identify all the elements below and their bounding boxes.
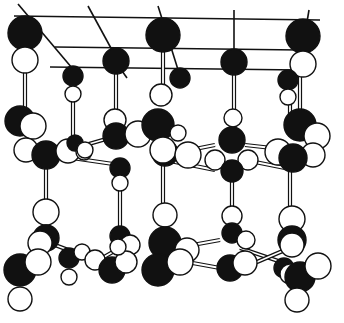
light-atom — [280, 89, 296, 105]
light-atom — [167, 249, 193, 275]
dark-atom — [103, 48, 129, 74]
dark-atom — [8, 16, 42, 50]
light-atom — [33, 199, 59, 225]
dark-atom — [146, 18, 180, 52]
light-atom — [65, 86, 81, 102]
dark-atom — [170, 68, 190, 88]
dark-atom — [279, 144, 307, 172]
light-atom — [233, 251, 257, 275]
light-atom — [61, 269, 77, 285]
dark-atom — [142, 109, 174, 141]
atoms — [4, 16, 331, 312]
light-atom — [77, 142, 93, 158]
dark-atom — [286, 19, 320, 53]
light-atom — [110, 239, 126, 255]
light-atom — [280, 233, 304, 257]
light-atom — [305, 253, 331, 279]
light-atom — [20, 113, 46, 139]
light-atom — [8, 287, 32, 311]
light-atom — [150, 84, 172, 106]
light-atom — [285, 288, 309, 312]
light-atom — [153, 203, 177, 227]
dark-atom — [63, 66, 83, 86]
dark-atom — [221, 160, 243, 182]
light-atom — [150, 137, 176, 163]
dark-atom — [219, 127, 245, 153]
light-atom — [175, 142, 201, 168]
lattice-line — [55, 47, 300, 50]
lattice-line — [88, 6, 112, 50]
dark-atom — [32, 141, 60, 169]
crystal-structure-diagram — [0, 0, 344, 323]
light-atom — [170, 125, 186, 141]
light-atom — [224, 109, 242, 127]
light-atom — [112, 175, 128, 191]
dark-atom — [221, 49, 247, 75]
dark-atom — [278, 70, 298, 90]
light-atom — [25, 249, 51, 275]
light-atom — [12, 47, 38, 73]
light-atom — [237, 231, 255, 249]
